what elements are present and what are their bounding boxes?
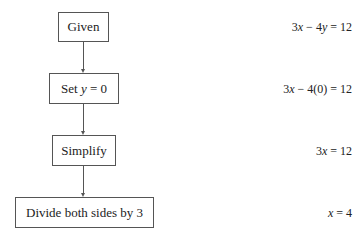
step-label: Divide both sides by 3 (26, 205, 143, 221)
step-label: Given (68, 19, 100, 35)
connector-line (83, 104, 84, 131)
arrow-down-icon (81, 69, 85, 73)
arrow-down-icon (81, 131, 85, 135)
equation-divide: x = 4 (328, 206, 352, 221)
connector-line (83, 166, 84, 193)
step-set-y-zero-box: Set y = 0 (49, 73, 119, 104)
step-label: Simplify (61, 143, 107, 159)
equation-simplify: 3x = 12 (316, 144, 352, 159)
step-divide-box: Divide both sides by 3 (15, 197, 154, 228)
arrow-down-icon (81, 193, 85, 197)
connector-line (83, 42, 84, 69)
step-simplify-box: Simplify (52, 135, 116, 166)
equation-set-y-zero: 3x − 4(0) = 12 (283, 82, 352, 97)
step-label: Set y = 0 (61, 81, 107, 97)
equation-given: 3x − 4y = 12 (292, 20, 352, 35)
step-given-box: Given (58, 12, 109, 42)
